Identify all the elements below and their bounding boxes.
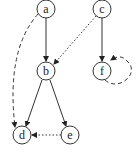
node-b-label: b bbox=[43, 64, 49, 78]
node-f-label: f bbox=[100, 64, 104, 78]
node-e-label: e bbox=[67, 128, 72, 142]
edge-a-d bbox=[13, 14, 38, 127]
node-c-label: c bbox=[99, 2, 104, 16]
edge-b-d bbox=[26, 80, 42, 126]
graph-diagram: a c b f d e bbox=[0, 0, 138, 153]
node-d-label: d bbox=[19, 128, 25, 142]
node-a-label: a bbox=[43, 2, 49, 16]
edge-b-e bbox=[50, 80, 66, 126]
edge-c-b bbox=[54, 16, 96, 64]
